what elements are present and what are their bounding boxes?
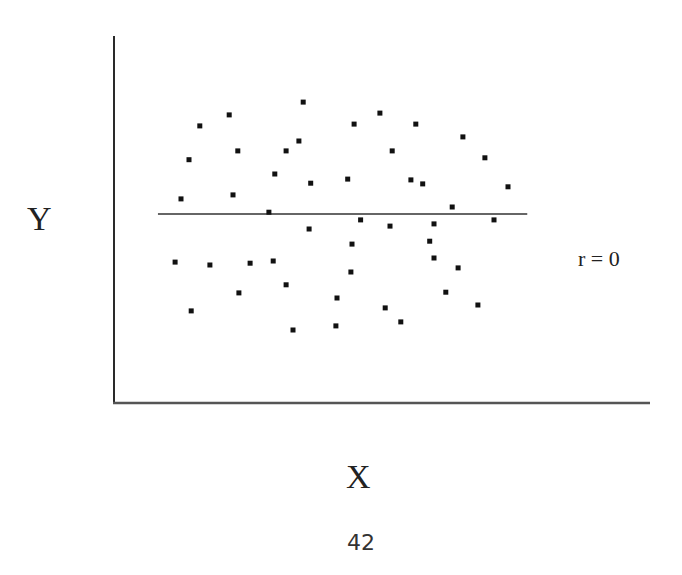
data-point xyxy=(272,172,277,177)
data-point xyxy=(460,134,465,139)
data-point xyxy=(352,122,357,127)
data-point xyxy=(307,227,312,232)
data-point xyxy=(456,265,461,270)
data-point xyxy=(388,224,393,229)
data-point xyxy=(350,242,355,247)
data-point xyxy=(482,155,487,160)
data-point xyxy=(207,263,212,268)
data-point xyxy=(408,177,413,182)
data-point xyxy=(398,319,403,324)
data-point xyxy=(179,196,184,201)
data-point xyxy=(236,290,241,295)
data-point xyxy=(348,270,353,275)
data-point xyxy=(266,210,271,215)
data-point xyxy=(506,184,511,189)
data-point xyxy=(383,305,388,310)
data-point xyxy=(284,148,289,153)
x-axis-label: X xyxy=(346,458,371,496)
data-point xyxy=(291,328,296,333)
data-point xyxy=(333,323,338,328)
axes xyxy=(113,36,650,403)
data-point xyxy=(197,123,202,128)
data-point xyxy=(420,181,425,186)
data-point xyxy=(475,303,480,308)
data-point xyxy=(173,260,178,265)
scatter-plot xyxy=(0,0,682,575)
data-point xyxy=(427,239,432,244)
data-point xyxy=(284,282,289,287)
data-point xyxy=(390,148,395,153)
data-point xyxy=(231,192,236,197)
data-point xyxy=(358,217,363,222)
data-point xyxy=(301,100,306,105)
page-number: 42 xyxy=(347,530,375,555)
data-point xyxy=(492,217,497,222)
data-points xyxy=(173,100,511,333)
data-point xyxy=(227,112,232,117)
data-point xyxy=(248,261,253,266)
data-point xyxy=(235,148,240,153)
data-point xyxy=(443,290,448,295)
data-point xyxy=(345,177,350,182)
data-point xyxy=(377,111,382,116)
data-point xyxy=(335,296,340,301)
data-point xyxy=(450,205,455,210)
data-point xyxy=(432,221,437,226)
data-point xyxy=(187,157,192,162)
data-point xyxy=(189,308,194,313)
data-point xyxy=(308,181,313,186)
y-axis-label: Y xyxy=(27,200,52,238)
data-point xyxy=(296,139,301,144)
data-point xyxy=(413,122,418,127)
data-point xyxy=(432,256,437,261)
data-point xyxy=(271,259,276,264)
correlation-annotation: r = 0 xyxy=(578,246,620,272)
